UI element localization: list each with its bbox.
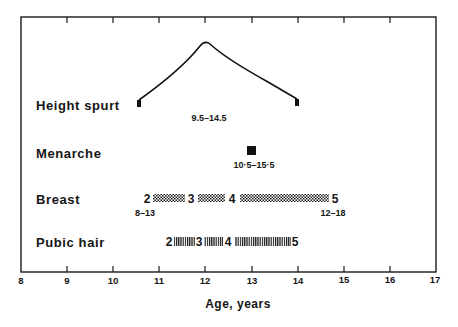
breast-stage-3: 3 [188,192,195,206]
breast-stage-4: 4 [229,192,236,206]
pubic-stage-4: 4 [225,235,232,249]
pubic-bar-2-3 [174,237,195,246]
puberty-timeline-chart: 8 9 10 11 12 13 14 15 16 17 Age, years H… [0,0,458,327]
breast-stage-5: 5 [332,192,339,206]
breast-end-range: 12–18 [320,208,345,218]
breast-bar-3-4 [198,194,225,202]
height-spurt-end-marker [295,99,299,106]
pubic-bar-4-5 [235,237,291,246]
tick-label: 14 [293,275,304,286]
breast-bar-2-3 [153,194,185,202]
pubic-stage-2: 2 [166,235,173,249]
tick-label: 13 [247,275,258,286]
height-spurt-curve [139,42,297,100]
plot-frame [21,17,436,272]
tick-label: 10 [108,275,119,286]
top-ticks [67,17,390,23]
row-label-height-spurt: Height spurt [36,98,120,113]
menarche-marker [247,146,256,155]
row-label-pubic-hair: Pubic hair [36,235,105,250]
bottom-ticks [67,266,390,272]
height-spurt-start-marker [137,100,141,107]
row-label-breast: Breast [36,192,80,207]
menarche-range: 10·5–15·5 [233,160,274,170]
pubic-stage-5: 5 [292,235,299,249]
height-spurt-range: 9.5–14.5 [191,113,226,123]
tick-label: 17 [430,274,441,285]
tick-label: 9 [64,275,69,286]
pubic-bar-3-4 [204,237,223,246]
x-axis-label: Age, years [205,297,271,311]
tick-label: 12 [200,275,211,286]
breast-start-range: 8–13 [135,208,155,218]
pubic-stage-3: 3 [196,235,203,249]
breast-stage-2: 2 [144,192,151,206]
breast-bar-4-5 [240,194,329,202]
tick-label: 16 [385,274,396,285]
row-label-menarche: Menarche [36,146,102,161]
tick-label: 15 [339,274,350,285]
tick-label: 8 [18,275,23,286]
x-tick-labels: 8 9 10 11 12 13 14 15 16 17 [18,274,440,286]
tick-label: 11 [154,275,165,286]
